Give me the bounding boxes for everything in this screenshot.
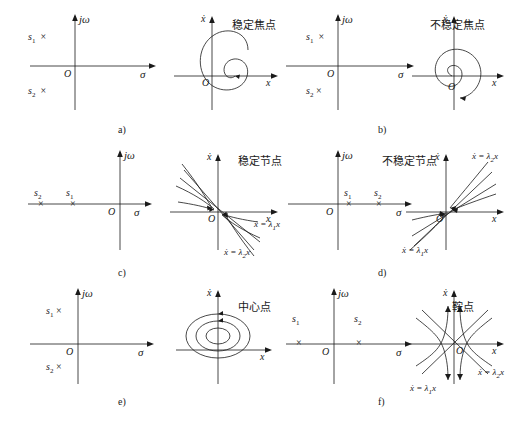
origin-label-phase-c: O	[208, 214, 215, 224]
axis-label-x-e: x	[260, 352, 264, 362]
axis-label-xdot-e: ẋ	[207, 288, 211, 298]
axis-label-jw-e: jω	[82, 288, 93, 299]
eigen-label-lambda1-f: ẋ = λ1x	[410, 384, 436, 396]
pole-s1-a: s1 ×	[28, 32, 46, 45]
panel-a-complex-plane: jω σ O s1 × s2 ×	[20, 14, 160, 114]
panel-c-complex-plane: jω σ O s2 s1 × ×	[20, 150, 160, 255]
pole-s2-f: s2	[354, 314, 361, 327]
pole-s1-e: s1 ×	[46, 306, 62, 319]
caption-c: c)	[118, 267, 126, 278]
pole-mark-s1-d: ×	[346, 199, 352, 209]
eigen-label-lambda1-c: ẋ = λ1x	[254, 220, 280, 232]
axis-label-jw-b: jω	[342, 14, 353, 25]
origin-label-d: O	[326, 207, 333, 217]
origin-label-phase-b: O	[448, 82, 455, 92]
axis-label-jw-f: jω	[338, 288, 349, 299]
type-label-unstable-node: 不稳定节点	[382, 152, 437, 168]
eigen-label-lambda2-f: ẋ = λ2x	[478, 368, 504, 380]
axis-label-sigma-b: σ	[398, 69, 403, 80]
caption-e: e)	[118, 396, 126, 407]
axis-label-sigma-f: σ	[396, 347, 401, 358]
type-label-unstable-focus: 不稳定焦点	[430, 16, 485, 32]
axis-label-x-d: x	[492, 214, 496, 224]
origin-label-c: O	[108, 207, 115, 217]
pole-s1-f: s1	[292, 314, 299, 327]
panel-f-complex-plane: jω σ O s1 s2 × ×	[278, 288, 418, 388]
eigen-label-lambda1-d: ẋ = λ1x	[402, 246, 428, 258]
origin-label-f: O	[322, 347, 329, 357]
axis-label-jw-c: jω	[124, 150, 135, 161]
pole-mark-s2-c: ×	[38, 199, 44, 209]
axis-label-x-b: x	[492, 78, 496, 88]
origin-label-e: O	[66, 347, 73, 357]
caption-a: a)	[118, 124, 126, 135]
eigen-label-lambda2-c: ẋ = λ2x	[224, 248, 250, 260]
pole-s2-b: s2 ×	[306, 86, 322, 99]
origin-label-a: O	[64, 69, 71, 79]
type-label-stable-focus: 稳定焦点	[232, 16, 276, 32]
pole-s2-e: s2 ×	[46, 362, 62, 375]
type-label-stable-node: 稳定节点	[238, 152, 282, 168]
pole-mark-s2-f: ×	[356, 338, 362, 348]
type-label-saddle: 鞍点	[452, 298, 474, 314]
pole-s1-b: s1 ×	[306, 32, 324, 45]
pole-mark-s2-d: ×	[376, 199, 382, 209]
pole-mark-s1-c: ×	[70, 199, 76, 209]
panel-e-complex-plane: jω σ O s1 × s2 ×	[20, 288, 160, 388]
axis-label-jw-d: jω	[342, 150, 353, 161]
type-label-center: 中心点	[238, 298, 271, 314]
axis-label-sigma-c: σ	[134, 207, 139, 218]
axis-label-x-f: x	[492, 346, 496, 356]
panel-b-complex-plane: jω σ O s1 × s2 ×	[278, 14, 418, 114]
origin-label-b: O	[327, 69, 334, 79]
axis-label-x-a: x	[266, 78, 270, 88]
axis-label-xdot-c: ẋ	[207, 152, 211, 162]
caption-f: f)	[378, 396, 385, 407]
pole-mark-s1-f: ×	[296, 338, 302, 348]
origin-label-phase-a: O	[202, 78, 209, 88]
axis-label-sigma-a: σ	[140, 69, 145, 80]
caption-d: d)	[378, 267, 386, 278]
axis-label-sigma-e: σ	[138, 347, 143, 358]
complex-plane-e-axes	[20, 288, 160, 388]
origin-label-phase-d: O	[436, 214, 443, 224]
eigen-label-lambda2-d: ẋ = λ2x	[472, 152, 498, 164]
origin-label-phase-f: O	[456, 346, 463, 356]
complex-plane-a-axes	[20, 14, 160, 114]
axis-label-jw-a: jω	[79, 14, 90, 25]
complex-plane-b-axes	[278, 14, 418, 114]
axis-label-xdot-f: ẋ	[443, 288, 447, 298]
pole-s2-a: s2 ×	[28, 86, 46, 99]
axis-label-xdot-a: ẋ	[201, 14, 205, 24]
caption-b: b)	[378, 124, 386, 135]
